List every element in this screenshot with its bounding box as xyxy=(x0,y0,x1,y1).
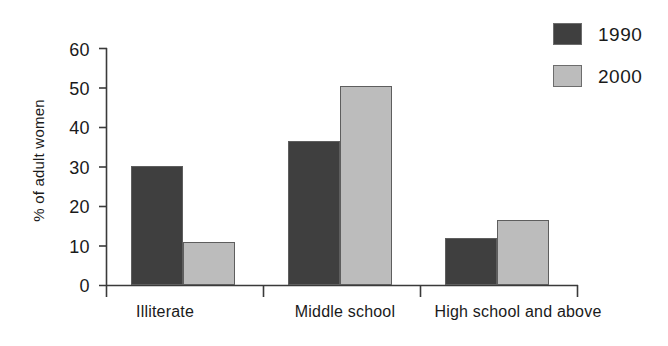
bar-high-school-1990[interactable] xyxy=(445,238,497,285)
x-label-high-school-and-above: High school and above xyxy=(418,303,618,321)
bar-chart: 1990 2000 % of adult women 60 50 40 30 2… xyxy=(0,0,668,346)
x-label-middle-school: Middle school xyxy=(265,303,425,321)
bar-high-school-2000[interactable] xyxy=(497,220,549,285)
bar-middle-school-1990[interactable] xyxy=(288,141,340,285)
bar-illiterate-2000[interactable] xyxy=(183,242,235,285)
x-axis-category-ticks xyxy=(107,285,578,297)
x-label-illiterate: Illiterate xyxy=(115,303,215,321)
bar-middle-school-2000[interactable] xyxy=(340,86,392,285)
bar-illiterate-1990[interactable] xyxy=(131,166,183,285)
